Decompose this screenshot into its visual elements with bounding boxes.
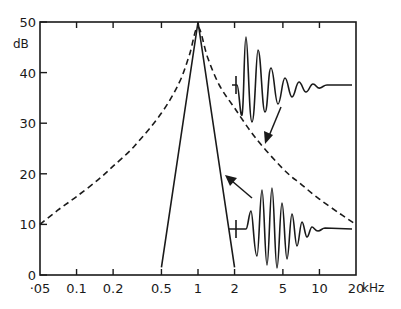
x-tick-label: 5 — [279, 281, 287, 296]
y-axis: 01020304050 — [19, 15, 47, 283]
y-axis-unit-label: dB — [13, 37, 29, 51]
x-axis: ·050.10.20.51251020 — [30, 22, 365, 296]
frequency-response-chart: 01020304050 ·050.10.20.51251020 dB kHz — [0, 0, 401, 309]
x-tick-label: 1 — [194, 281, 202, 296]
broad-filter-curve — [40, 27, 356, 224]
x-tick-label: 0.5 — [151, 281, 172, 296]
x-tick-label: 0.2 — [103, 281, 124, 296]
arrow-upper-shaft — [269, 107, 281, 136]
narrow-filter-curve — [161, 22, 234, 267]
x-axis-unit-label: kHz — [362, 281, 384, 295]
y-tick-label: 10 — [19, 217, 36, 232]
arrow-lower-shaft — [232, 181, 252, 198]
series-group — [40, 22, 356, 267]
x-tick-label: 2 — [230, 281, 238, 296]
x-tick-label: 0.1 — [66, 281, 87, 296]
y-tick-label: 40 — [19, 66, 36, 81]
y-tick-label: 20 — [19, 167, 36, 182]
impulse-response-waveforms — [229, 37, 352, 268]
lower-waveform-narrow-filter — [229, 188, 352, 268]
y-tick-label: 50 — [19, 15, 36, 30]
arrow-upper-head-icon — [264, 131, 273, 144]
plot-frame — [40, 22, 356, 275]
y-tick-label: 30 — [19, 116, 36, 131]
x-tick-label: ·05 — [30, 281, 51, 296]
upper-waveform-broad-filter — [232, 37, 352, 122]
plot-border — [40, 22, 356, 275]
x-tick-label: 10 — [311, 281, 328, 296]
